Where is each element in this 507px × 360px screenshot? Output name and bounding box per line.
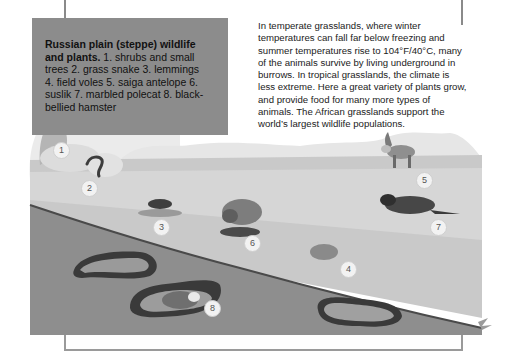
marker-5: 5 xyxy=(416,172,433,189)
caption-text: Russian plain (steppe) wildlife and plan… xyxy=(45,38,210,113)
description-text: In temperate grasslands, where winter te… xyxy=(258,20,468,131)
marker-2: 2 xyxy=(81,180,98,197)
marker-3: 3 xyxy=(153,219,170,236)
marker-7: 7 xyxy=(430,219,447,236)
marker-8: 8 xyxy=(204,300,221,317)
marker-1: 1 xyxy=(53,142,70,159)
bottom-bracket xyxy=(64,335,463,351)
marker-4: 4 xyxy=(340,261,357,278)
marker-6: 6 xyxy=(244,235,261,252)
